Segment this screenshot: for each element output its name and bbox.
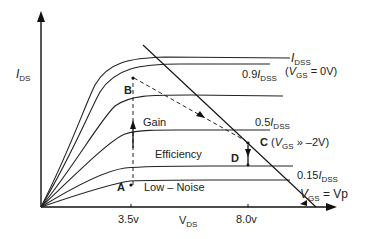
point-c-marker	[246, 141, 249, 144]
point-a-label: A	[117, 182, 125, 193]
arrow-down-right-icon	[196, 111, 205, 118]
y-axis-label: IDS	[16, 68, 30, 83]
x-tick-8.0v: 8.0v	[236, 214, 257, 225]
arrow-down-icon	[245, 149, 251, 157]
x-axis-label: VDS	[179, 215, 197, 229]
region-low-noise-label: Low – Noise	[144, 182, 205, 193]
point-d-label: D	[231, 153, 239, 164]
region-efficiency-label: Efficiency	[155, 149, 202, 160]
point-a-marker	[129, 183, 132, 186]
point-c-label: C (VGS » –2V)	[260, 137, 329, 151]
point-b-label: B	[124, 85, 132, 96]
label-0.15idss: 0.15IDSS	[297, 170, 338, 184]
label-vgs-0v: (VGS = 0V)	[285, 66, 337, 80]
x-tick-3.5v: 3.5v	[118, 214, 139, 225]
y-axis	[37, 11, 45, 207]
point-b-marker	[131, 76, 134, 79]
dashed-line-b-c	[134, 78, 246, 141]
arrow-up-icon	[130, 120, 136, 129]
region-gain-label: Gain	[143, 117, 166, 128]
fet-characteristic-plot	[0, 0, 386, 239]
label-0.9idss: 0.9IDSS	[242, 69, 277, 83]
label-vgs-vp: VGS = Vp	[300, 188, 348, 203]
label-0.5idss: 0.5IDSS	[255, 117, 290, 131]
x-axis	[41, 203, 337, 211]
